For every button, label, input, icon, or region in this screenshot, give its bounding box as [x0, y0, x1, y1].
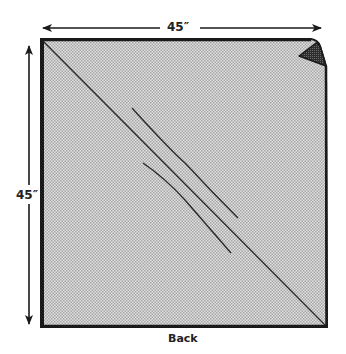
width-label: 45″ [164, 21, 192, 33]
quilt-diagram: 45″ 45″ Back [0, 0, 346, 354]
height-label: 45″ [16, 188, 38, 202]
diagram-canvas [0, 0, 346, 354]
diagram-caption: Back [168, 333, 198, 344]
